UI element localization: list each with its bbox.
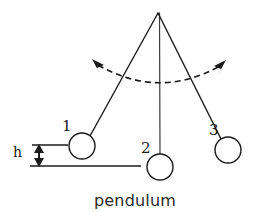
bob-3 [215,137,241,163]
pendulum-figure: h 1 2 3 pendulum [0,0,257,212]
bob-2-label: 2 [141,139,151,157]
bob-1 [69,133,95,159]
pendulum-diagram: h 1 2 3 pendulum [0,0,257,212]
figure-caption: pendulum [94,191,176,210]
swing-arc-dashed [98,65,220,83]
height-marker-group [32,144,68,167]
rod-to-bob-1 [90,13,158,136]
pendulum-bobs [69,133,241,180]
swing-arc-group [92,59,226,83]
bob-2 [147,154,173,180]
height-label: h [13,144,22,160]
bob-3-label: 3 [209,121,219,139]
pendulum-rods [90,13,221,154]
bob-1-label: 1 [62,117,72,135]
